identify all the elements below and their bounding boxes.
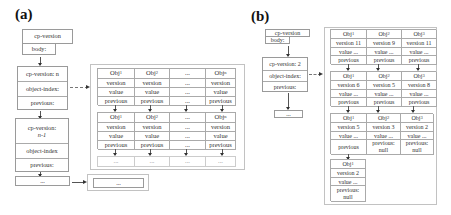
b-level-1: Obj1 Obj2 Obj3 version 11 version 9 vers… [330, 29, 436, 64]
continuation-cell: ... [135, 157, 170, 167]
table1-cell: previous [98, 97, 135, 106]
b-arrow-l1-l2 [418, 64, 419, 70]
b-l3-obj2-name: Obj2 [367, 114, 401, 123]
b-l3-version: version 5 [331, 123, 367, 132]
b-l1-previous: previous [367, 56, 402, 65]
checkpoint-n1-box: cp-version: n-1 object-index previous: [15, 118, 69, 172]
b-checkpoint-index: object-index: [263, 70, 307, 81]
b-arrow-cp-to-more [288, 93, 289, 109]
table2-cell: version [135, 123, 170, 132]
b-l1-value: value ... [402, 48, 437, 56]
b-arrow-l1-l2 [378, 64, 379, 70]
table2-cell: value [206, 132, 236, 141]
b-arrow-l1-l2 [348, 64, 349, 70]
b-l2-value: value ... [367, 90, 402, 98]
table1-header-2: Obj2 [135, 69, 170, 79]
continuation-cell: ... [206, 157, 236, 167]
root-title: cp-version [23, 30, 72, 43]
b-l2-previous: previous [367, 98, 402, 107]
continuation-cell: ... [170, 157, 206, 167]
b-l1-version: version 9 [367, 39, 402, 48]
b-l2-version: version 5 [367, 81, 402, 90]
b-l2-value: value ... [331, 90, 367, 98]
b-l2-version: version 8 [402, 81, 437, 90]
table2-cell: previous [206, 141, 236, 150]
b-arrow-l2-l3 [413, 106, 414, 112]
b-l3-previous-null: previous: null [401, 140, 434, 155]
arrow-t1-t2 [150, 105, 151, 111]
table2-header-4: Objn [206, 113, 236, 123]
arrow-index-to-objects [70, 87, 88, 88]
table1-cell: version [98, 79, 135, 88]
table1-cell: version [206, 79, 236, 88]
arrow-t2-cont [186, 149, 187, 155]
root-body: body: [23, 44, 55, 54]
table2-cell: version [98, 123, 135, 132]
b-l2-obj3-name: Obj3 [402, 72, 437, 81]
arrow-t2-cont [150, 149, 151, 155]
b-root-body: body: [266, 37, 289, 43]
root-cp-version-box: cp-version [22, 29, 73, 44]
bottom-ellipsis: ... [94, 179, 143, 187]
checkpoint-n1-previous: previous: [16, 158, 68, 172]
b-arrow-l2-l3 [378, 106, 379, 112]
checkpoint-n-version: cp-version: n [18, 67, 67, 81]
table2-cell: value [135, 132, 170, 141]
panel-b-label: (b) [251, 8, 269, 25]
b-l2-previous: previous [331, 98, 367, 107]
b-l4-previous-null: previous: null [331, 186, 366, 202]
b-l1-previous: previous [402, 56, 437, 65]
b-l4-obj1-name: Obj1 [331, 160, 366, 169]
checkpoint-n-box: cp-version: n object-index: previous: [17, 66, 68, 110]
b-l1-previous: previous [331, 56, 367, 65]
b-root-body-box: body: [265, 36, 290, 44]
arrow-more-to-more-objects [72, 182, 85, 183]
b-l1-version: version 11 [402, 39, 437, 48]
b-checkpoint-box: cp-version: 2 object-index: previous: [262, 57, 308, 92]
table1-cell: value [206, 88, 236, 97]
table2-cell: ... [170, 132, 206, 141]
continuation-row: ... ... ... ... [97, 156, 236, 167]
b-checkpoint-ellipsis-box: ... [274, 110, 303, 118]
b-l3-version: version 2 [401, 123, 434, 132]
b-l4-value: value ... [331, 178, 366, 186]
b-l3-previous: previous [331, 140, 367, 155]
checkpoint-n1-index: object-index [16, 143, 68, 158]
table1-cell: value [135, 88, 170, 97]
b-l3-obj3-name: Obj3 [401, 114, 434, 123]
table1-cell: version [135, 79, 170, 88]
table1-cell: ... [170, 97, 206, 106]
checkpoint-n-index: object-index: [18, 81, 67, 96]
bottom-objects-container: ... [87, 174, 149, 191]
continuation-cell: ... [98, 157, 135, 167]
checkpoint-n1-version: cp-version: n-1 [16, 119, 68, 143]
b-arrow-l2-l3 [348, 106, 349, 112]
table1-cell: previous [135, 97, 170, 106]
arrow-root-to-n [40, 57, 41, 65]
b-l3-version: version 3 [367, 123, 401, 132]
b-level-4: Obj1 version 2 value ... previous: null [330, 159, 366, 201]
panel-a-label: (a) [15, 6, 33, 23]
b-l3-value: value ... [331, 132, 367, 140]
arrow-t1-t2 [115, 105, 116, 111]
b-l1-version: version 11 [331, 39, 367, 48]
table2-cell: ... [170, 141, 206, 150]
b-checkpoint-version: cp-version: 2 [263, 58, 307, 70]
table1-cell: ... [170, 88, 206, 97]
table1-cell: previous [206, 97, 236, 106]
root-body-box: body: [22, 43, 56, 55]
b-l1-obj3-name: Obj3 [402, 30, 437, 39]
b-l2-obj2-name: Obj2 [367, 72, 402, 81]
table2-header-3: ... [170, 113, 206, 123]
arrow-t2-cont [222, 149, 223, 155]
table2-cell: ... [170, 123, 206, 132]
b-l4-version: version 2 [331, 169, 366, 178]
arrow-t2-cont [115, 149, 116, 155]
bottom-ellipsis-box: ... [93, 178, 144, 188]
arrow-t1-t2 [222, 105, 223, 111]
table1-cell: ... [170, 79, 206, 88]
object-table-2: Obj1 Obj2 ... Objn version version ... v… [97, 112, 236, 149]
b-l3-previous-null: previous: null [367, 140, 401, 155]
checkpoint-ellipsis: ... [16, 177, 69, 185]
table2-header-1: Obj1 [98, 113, 135, 123]
